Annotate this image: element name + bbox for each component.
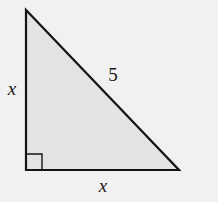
right-triangle [26, 10, 179, 170]
hypotenuse-label: 5 [108, 64, 118, 85]
diagram-canvas: x x 5 [0, 0, 218, 202]
left-leg-label: x [7, 78, 17, 99]
triangle-diagram: x x 5 [0, 0, 218, 202]
bottom-leg-label: x [98, 175, 108, 196]
